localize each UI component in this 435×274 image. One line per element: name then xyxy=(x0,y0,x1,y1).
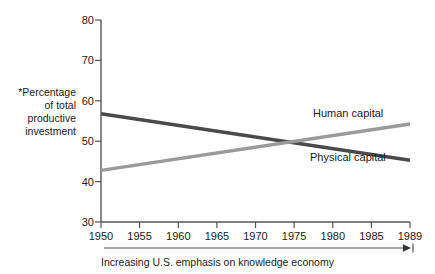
x-tick-label-1955: 1955 xyxy=(120,231,160,242)
trend-arrow xyxy=(104,244,413,253)
series-line-human-capital xyxy=(101,124,410,170)
x-tick-label-1970: 1970 xyxy=(236,231,276,242)
x-tick-label-1965: 1965 xyxy=(197,231,237,242)
x-tick-label-1980: 1980 xyxy=(313,231,353,242)
x-axis-caption: Increasing U.S. emphasis on knowledge ec… xyxy=(0,256,435,268)
series-label-human-capital: Human capital xyxy=(313,108,383,119)
x-tick-label-1985: 1985 xyxy=(351,231,391,242)
trend-arrow-head xyxy=(403,244,411,252)
x-tick-label-1960: 1960 xyxy=(158,231,198,242)
x-tick-label-1975: 1975 xyxy=(274,231,314,242)
series-label-physical-capital: Physical capital xyxy=(310,152,386,163)
x-tick-label-1989: 1989 xyxy=(390,231,430,242)
x-tick-marks xyxy=(101,222,410,228)
line-chart-figure: *Percentage of total productive investme… xyxy=(0,0,435,274)
x-tick-label-1950: 1950 xyxy=(81,231,121,242)
y-tick-marks xyxy=(95,20,101,222)
